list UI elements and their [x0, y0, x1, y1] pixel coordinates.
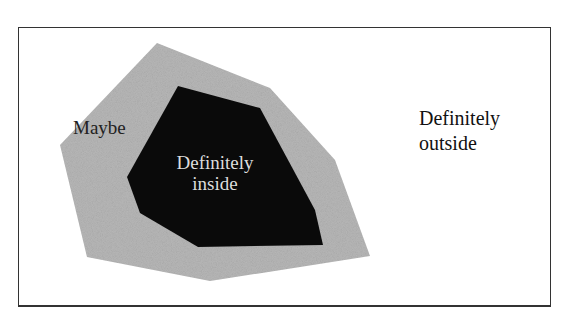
regions-canvas [0, 0, 568, 325]
definitely-inside-label: Definitely inside [160, 152, 270, 194]
definitely-outside-label-line-2: outside [419, 131, 500, 156]
maybe-label: Maybe [73, 117, 126, 140]
definitely-inside-label-line-1: Definitely [160, 152, 270, 173]
definitely-outside-label-line-1: Definitely [419, 106, 500, 131]
definitely-inside-label-line-2: inside [160, 173, 270, 194]
definitely-outside-label: Definitely outside [419, 106, 500, 156]
